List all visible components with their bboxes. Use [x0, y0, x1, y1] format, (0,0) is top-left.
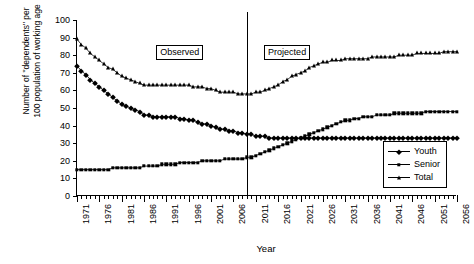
- data-point-senior: [281, 143, 284, 146]
- data-point-senior: [317, 129, 320, 132]
- data-point-senior: [455, 110, 458, 113]
- data-point-total: [214, 88, 218, 92]
- x-tick-major: [122, 195, 123, 202]
- data-point-senior: [339, 120, 342, 123]
- data-point-senior: [205, 159, 208, 162]
- data-point-total: [307, 65, 311, 69]
- data-point-senior: [200, 159, 203, 162]
- data-point-total: [169, 83, 173, 87]
- data-point-senior: [174, 163, 177, 166]
- data-point-total: [147, 83, 151, 87]
- data-point-total: [240, 92, 244, 96]
- data-point-senior: [428, 110, 431, 113]
- data-point-total: [361, 56, 365, 60]
- data-point-total: [84, 46, 88, 50]
- x-tick-major: [278, 195, 279, 202]
- data-point-senior: [375, 113, 378, 116]
- data-point-total: [303, 69, 307, 73]
- data-point-total: [115, 70, 119, 74]
- data-point-senior: [250, 156, 253, 159]
- x-tick-major: [323, 195, 324, 202]
- legend-marker-square-icon: [388, 159, 410, 170]
- data-point-total: [446, 49, 450, 53]
- data-point-senior: [451, 110, 454, 113]
- data-point-senior: [183, 161, 186, 164]
- data-point-total: [106, 65, 110, 69]
- x-tick-major: [166, 195, 167, 202]
- data-point-senior: [326, 126, 329, 129]
- y-tick-label: 30: [40, 138, 70, 148]
- data-point-youth: [454, 135, 459, 140]
- data-point-total: [263, 88, 267, 92]
- x-tick-major: [256, 195, 257, 202]
- y-tick-label: 50: [40, 103, 70, 113]
- data-point-total: [187, 83, 191, 87]
- data-point-total: [276, 83, 280, 87]
- data-point-senior: [129, 166, 132, 169]
- x-tick-label: 1991: [170, 204, 180, 224]
- data-point-senior: [299, 136, 302, 139]
- data-point-senior: [285, 141, 288, 144]
- x-tick-major: [368, 195, 369, 202]
- x-tick-label: 2051: [439, 204, 449, 224]
- data-point-total: [196, 84, 200, 88]
- legend-item-youth[interactable]: Youth: [388, 145, 440, 158]
- data-point-total: [120, 74, 124, 78]
- x-tick-label: 2001: [215, 204, 225, 224]
- x-tick-label: 1996: [193, 204, 203, 224]
- data-point-total: [299, 70, 303, 74]
- data-point-total: [155, 83, 159, 87]
- data-point-total: [142, 83, 146, 87]
- data-point-senior: [98, 168, 101, 171]
- data-point-total: [236, 92, 240, 96]
- data-point-total: [245, 92, 249, 96]
- x-tick-major: [99, 195, 100, 202]
- data-point-total: [254, 90, 258, 94]
- data-point-total: [281, 79, 285, 83]
- y-tick-label: 60: [40, 85, 70, 95]
- data-point-total: [102, 62, 106, 66]
- data-point-total: [272, 84, 276, 88]
- data-point-total: [455, 49, 459, 53]
- data-point-senior: [160, 163, 163, 166]
- data-point-total: [88, 51, 92, 55]
- y-tick-label: 40: [40, 121, 70, 131]
- data-point-total: [410, 53, 414, 57]
- legend-item-total[interactable]: Total: [388, 171, 440, 184]
- x-tick-label: 1986: [148, 204, 158, 224]
- data-point-senior: [89, 168, 92, 171]
- data-point-total: [419, 51, 423, 55]
- data-point-senior: [124, 166, 127, 169]
- chart-figure: Number of "dependents" per 100 populatio…: [0, 0, 474, 264]
- data-point-senior: [151, 164, 154, 167]
- data-point-total: [343, 56, 347, 60]
- legend-item-senior[interactable]: Senior: [388, 158, 440, 171]
- data-point-senior: [227, 157, 230, 160]
- legend-label: Youth: [414, 145, 437, 158]
- x-tick-label: 2026: [327, 204, 337, 224]
- y-tick-label: 20: [40, 156, 70, 166]
- data-point-senior: [218, 159, 221, 162]
- data-point-total: [294, 72, 298, 76]
- data-point-senior: [348, 119, 351, 122]
- data-point-senior: [245, 156, 248, 159]
- data-point-total: [249, 92, 253, 96]
- data-point-total: [79, 42, 83, 46]
- data-point-total: [164, 83, 168, 87]
- data-point-total: [93, 55, 97, 59]
- data-point-senior: [321, 127, 324, 130]
- x-tick-major: [189, 195, 190, 202]
- data-point-senior: [290, 140, 293, 143]
- data-point-senior: [232, 157, 235, 160]
- y-tick-label: 90: [40, 33, 70, 43]
- data-point-senior: [133, 166, 136, 169]
- data-point-senior: [156, 164, 159, 167]
- x-tick-label: 2006: [237, 204, 247, 224]
- data-point-senior: [420, 112, 423, 115]
- x-tick-major: [457, 195, 458, 202]
- data-point-senior: [402, 112, 405, 115]
- legend-label: Total: [414, 171, 433, 184]
- data-point-senior: [344, 119, 347, 122]
- data-point-senior: [393, 112, 396, 115]
- x-tick-major: [211, 195, 212, 202]
